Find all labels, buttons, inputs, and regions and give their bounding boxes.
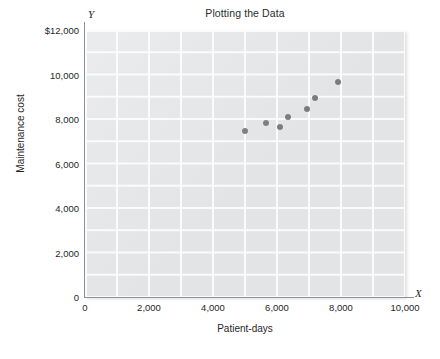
x-tick-label: 4,000 [201, 302, 225, 313]
data-point [304, 106, 310, 112]
x-tick-label: 2,000 [137, 302, 161, 313]
data-point [335, 79, 341, 85]
y-axis-line [84, 22, 85, 298]
x-axis-line [84, 297, 414, 298]
scatter-chart: Plotting the Data Y X 02,0004,0006,0008,… [0, 0, 440, 359]
data-point [285, 114, 291, 120]
plot-shading-overlay [85, 30, 405, 297]
chart-title: Plotting the Data [85, 7, 405, 19]
x-axis-marker: X [415, 287, 422, 299]
x-tick-label: 6,000 [265, 302, 289, 313]
plot-area [85, 30, 405, 297]
y-axis-marker: Y [88, 8, 94, 20]
y-tick-label: 2,000 [5, 247, 79, 258]
data-point [312, 95, 318, 101]
x-tick-label: 10,000 [390, 302, 419, 313]
y-tick-label: 4,000 [5, 203, 79, 214]
x-tick-label: 8,000 [329, 302, 353, 313]
x-tick-label: 0 [82, 302, 87, 313]
x-axis-tick-labels: 02,0004,0006,0008,00010,000 [0, 302, 440, 320]
y-axis-title: Maintenance cost [15, 69, 26, 199]
data-point [242, 128, 248, 134]
data-point [263, 120, 269, 126]
y-tick-label: $12,000 [5, 25, 79, 36]
grid-edge-top [85, 30, 405, 32]
data-point [277, 124, 283, 130]
y-tick-label: 0 [5, 292, 79, 303]
x-axis-title: Patient-days [85, 323, 405, 334]
